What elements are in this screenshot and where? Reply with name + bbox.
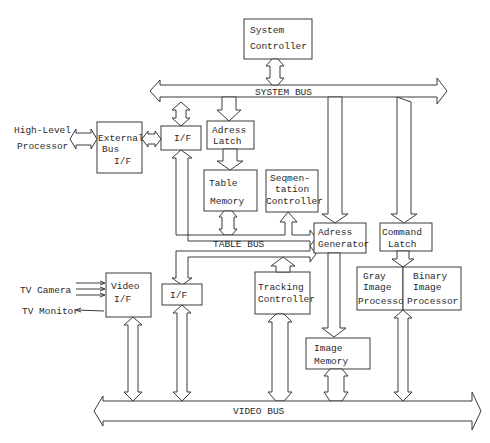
binary-image-processor-label-3: Processor (407, 296, 458, 307)
external-if-to-if-arrow (142, 131, 161, 147)
external-bus-if-label-2: Bus (102, 144, 119, 155)
segmentation-controller-label-2: tation (275, 184, 309, 195)
tracking-controller-label-1: Tracking (258, 282, 304, 293)
high-level-processor-label-2: Processor (17, 141, 68, 152)
tv-monitor-signal (77, 310, 104, 311)
if-system-bus-arrow (172, 102, 190, 126)
system-bus-to-adress-generator-arrow (322, 97, 348, 223)
system-controller-bus-arrow (266, 59, 284, 85)
adress-latch-to-table-memory-arrow (217, 149, 243, 170)
lower-if-label: I/F (170, 290, 187, 301)
adress-generator-label-2: Generator (318, 239, 369, 250)
video-if-video-bus-arrow (124, 317, 142, 401)
lower-if-video-bus-arrow (173, 305, 191, 401)
high-level-processor-label-1: High-Level (14, 125, 71, 136)
image-memory-label-1: Image (314, 343, 343, 354)
processors-video-bus-arrow (394, 310, 412, 401)
video-if-label-2: I/F (114, 294, 131, 305)
tv-monitor-label: TV Monitor (22, 306, 79, 317)
adress-latch-label-1: Adress (212, 125, 246, 136)
binary-image-processor-label-1: Binary (413, 271, 448, 282)
external-bus-if-label-1: External (98, 133, 144, 144)
table-bus-label: TABLE BUS (213, 239, 265, 250)
gray-image-processor-label-2: Image (363, 282, 392, 293)
system-bus-to-adress-latch-arrow (217, 97, 241, 121)
system-bus-label: SYSTEM BUS (255, 87, 312, 98)
tracking-controller-block (255, 272, 310, 314)
image-memory-video-bus-arrow (324, 369, 348, 401)
command-latch-label-1: Command (382, 227, 422, 238)
upper-if-label: I/F (174, 133, 191, 144)
image-memory-label-2: Memory (314, 356, 349, 367)
table-memory-label-2: Memory (210, 196, 245, 207)
table-memory-label-1: Table (209, 178, 238, 189)
adress-latch-label-2: Latch (213, 136, 242, 147)
gray-image-processor-label-3: Processor (358, 296, 409, 307)
command-latch-to-processors-arrow (392, 251, 414, 267)
adress-generator-to-image-memory-arrow (322, 253, 346, 337)
tracking-controller-label-2: Controller (258, 294, 315, 305)
adress-generator-label-1: Adress (318, 227, 352, 238)
system-bus-to-command-latch-arrow (391, 97, 417, 223)
binary-image-processor-label-2: Image (413, 282, 442, 293)
tracking-controller-to-table-bus-arrow (271, 257, 295, 272)
segmentation-controller-label-1: Seqmen- (270, 173, 310, 184)
system-controller-label-1: System (250, 25, 285, 36)
external-bus-if-label-3: I/F (114, 156, 131, 167)
command-latch-label-2: Latch (388, 239, 417, 250)
tracking-controller-video-bus-arrow (268, 314, 292, 401)
table-memory-table-bus-arrow (219, 211, 237, 235)
segmentation-controller-label-3: Controller (266, 196, 323, 207)
high-level-processor-arrow (70, 129, 97, 149)
video-if-label-1: Video (111, 281, 140, 292)
tv-camera-label: TV Camera (20, 285, 72, 296)
system-block-diagram: SYSTEM BUS System Controller External Bu… (0, 0, 490, 443)
video-bus-label: VIDEO BUS (233, 406, 285, 417)
system-controller-label-2: Controller (250, 41, 307, 52)
gray-image-processor-label-1: Gray (363, 271, 386, 282)
